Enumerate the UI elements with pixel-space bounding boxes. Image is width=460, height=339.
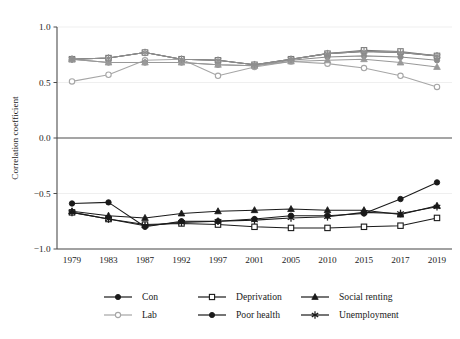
data-point-square-open	[325, 225, 330, 230]
legend-item-poor-health[interactable]: Poor health	[198, 309, 280, 320]
data-point-square-open	[361, 224, 366, 229]
data-series	[69, 48, 441, 231]
data-point-circle-filled	[106, 200, 111, 205]
y-axis-title: Correlation coefficient	[10, 96, 20, 180]
x-tick-label: 1997	[209, 255, 228, 265]
y-axis-label: Correlation coefficient	[10, 96, 20, 180]
x-tick-label: 1987	[136, 255, 155, 265]
correlation-line-chart: 1.00.50.0−0.5−1.0 1979198319871992199720…	[0, 0, 460, 339]
data-point-circle-filled	[115, 294, 120, 299]
legend-label: Deprivation	[236, 291, 282, 302]
data-point-square-open	[209, 294, 214, 299]
data-point-square-open	[434, 215, 439, 220]
data-point-square-open	[288, 225, 293, 230]
data-point-circle-filled	[69, 201, 74, 206]
x-tick-label: 1992	[172, 255, 191, 265]
legend-item-deprivation[interactable]: Deprivation	[198, 291, 282, 302]
y-tick-label: −1.0	[34, 244, 51, 254]
x-tick-label: 1979	[63, 255, 82, 265]
data-point-triangle-filled	[288, 206, 295, 212]
data-point-circle-open	[69, 79, 74, 84]
chart-legend: ConDeprivationSocial rentingLabPoor heal…	[104, 291, 399, 320]
x-tick-label: 2010	[318, 255, 337, 265]
chart-figure: 1.00.50.0−0.5−1.0 1979198319871992199720…	[0, 0, 460, 339]
data-point-circle-open	[398, 73, 403, 78]
legend-label: Lab	[142, 309, 157, 320]
x-tick-label: 2015	[355, 255, 374, 265]
x-axis-ticks: 1979198319871992199720012005201020152017…	[63, 255, 447, 265]
legend-label: Con	[142, 291, 158, 302]
legend-item-unemployment[interactable]: Unemployment	[301, 309, 399, 320]
data-point-circle-open	[215, 73, 220, 78]
legend-item-social-renting[interactable]: Social renting	[301, 291, 393, 302]
data-point-circle-filled	[209, 312, 214, 317]
legend-label: Social renting	[339, 291, 393, 302]
data-point-circle-open	[106, 72, 111, 77]
x-tick-label: 2017	[391, 255, 410, 265]
x-tick-label: 2001	[245, 255, 264, 265]
y-tick-label: 1.0	[39, 22, 51, 32]
legend-label: Unemployment	[339, 309, 399, 320]
data-point-circle-open	[115, 312, 120, 317]
data-point-circle-open	[361, 65, 366, 70]
y-axis-ticks: 1.00.50.0−0.5−1.0	[34, 22, 57, 254]
y-tick-label: −0.5	[34, 189, 51, 199]
x-tick-label: 1983	[99, 255, 118, 265]
y-tick-label: 0.5	[39, 78, 51, 88]
data-point-square-open	[398, 223, 403, 228]
data-point-circle-filled	[434, 180, 439, 185]
x-tick-label: 2005	[282, 255, 301, 265]
legend-label: Poor health	[236, 309, 280, 320]
data-point-circle-open	[434, 84, 439, 89]
x-tick-label: 2019	[428, 255, 447, 265]
data-point-circle-filled	[398, 196, 403, 201]
y-tick-label: 0.0	[39, 133, 51, 143]
legend-item-con[interactable]: Con	[104, 291, 158, 302]
legend-item-lab[interactable]: Lab	[104, 309, 157, 320]
data-point-square-open	[252, 224, 257, 229]
